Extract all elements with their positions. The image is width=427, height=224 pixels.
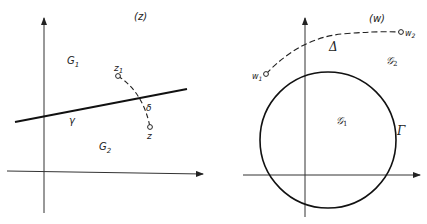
w2-label: w2 (405, 29, 416, 39)
conformal-mapping-diagram: (z) G1 G2 γ δ z1 z (w) Δ 𝒢2 𝒢1 Γ w1 w2 (0, 0, 427, 224)
w-plane-panel: (w) Δ 𝒢2 𝒢1 Γ w1 w2 (243, 13, 420, 217)
w-plane-label: (w) (369, 13, 385, 24)
z-point (148, 125, 153, 130)
region-g1-label: G1 (67, 55, 79, 69)
delta-label: δ (146, 103, 152, 113)
gamma-circle-label: Γ (396, 124, 406, 138)
z-plane-panel: (z) G1 G2 γ δ z1 z (7, 11, 203, 213)
region-g1-label: 𝒢1 (336, 115, 347, 128)
region-g2-label: G2 (99, 141, 112, 155)
w1-label: w1 (252, 72, 262, 82)
w1-point (264, 72, 269, 77)
gamma-boundary-line (15, 89, 187, 122)
z-real-axis (7, 171, 203, 174)
z-plane-label: (z) (134, 11, 147, 22)
w2-point (399, 30, 404, 35)
delta-label: Δ (328, 40, 338, 54)
gamma-circle (260, 72, 396, 208)
gamma-label: γ (69, 115, 76, 126)
region-g2-label: 𝒢2 (386, 55, 397, 68)
z-label: z (146, 131, 152, 141)
z1-label: z1 (113, 63, 123, 75)
